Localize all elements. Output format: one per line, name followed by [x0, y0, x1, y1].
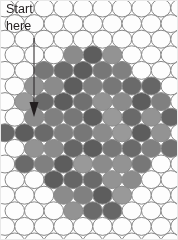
hexagonal-lattice-canvas	[0, 0, 178, 240]
start-here-label: Start here	[6, 1, 54, 35]
bubble-raft-figure: Start here	[0, 0, 178, 240]
